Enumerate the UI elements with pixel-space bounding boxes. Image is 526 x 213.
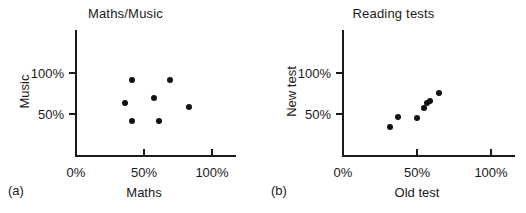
y-axis-title-a: Music (17, 51, 32, 131)
data-point-a-1 (122, 100, 128, 106)
x-axis-line-a (75, 155, 236, 157)
x-axis-line-b (342, 155, 515, 157)
x-tick-b-1 (416, 149, 418, 155)
data-point-b-6 (436, 90, 442, 96)
data-point-a-2 (129, 118, 135, 124)
data-point-b-1 (395, 114, 401, 120)
y-axis-line-b (342, 30, 344, 157)
x-axis-title-b: Old test (395, 185, 440, 200)
y-tick-b-0 (336, 113, 342, 115)
y-tick-label-a-0: 50% (0, 107, 64, 122)
data-point-a-5 (167, 77, 173, 83)
y-tick-label-a-1: 100% (0, 66, 64, 81)
scatterplot-figure: Maths/Music 50%100%0%50%100%MathsMusic (… (0, 0, 526, 213)
x-tick-a-2 (211, 149, 213, 155)
plot-area-b: 50%100%0%50%100%Old testNew test (263, 0, 526, 213)
x-tick-label-b-2: 100% (474, 165, 507, 180)
panel-a: Maths/Music 50%100%0%50%100%MathsMusic (… (0, 0, 263, 213)
data-point-a-4 (156, 118, 162, 124)
y-tick-a-0 (69, 113, 75, 115)
y-tick-a-1 (69, 72, 75, 74)
panel-label-a: (a) (8, 183, 24, 198)
x-tick-label-a-0: 0% (67, 165, 86, 180)
panel-label-b: (b) (271, 183, 287, 198)
data-point-b-0 (387, 124, 393, 130)
data-point-b-3 (421, 105, 427, 111)
data-point-a-6 (186, 104, 192, 110)
x-tick-label-a-1: 50% (131, 165, 157, 180)
x-tick-a-1 (143, 149, 145, 155)
y-axis-title-b: New test (284, 51, 299, 131)
y-axis-line-a (75, 30, 77, 157)
x-tick-b-2 (490, 149, 492, 155)
x-tick-label-a-2: 100% (195, 165, 228, 180)
x-axis-title-a: Maths (126, 185, 161, 200)
x-tick-label-b-1: 50% (404, 165, 430, 180)
data-point-a-0 (129, 77, 135, 83)
x-tick-label-b-0: 0% (334, 165, 353, 180)
data-point-a-3 (151, 95, 157, 101)
data-point-b-2 (414, 115, 420, 121)
data-point-b-5 (427, 98, 433, 104)
y-tick-b-1 (336, 72, 342, 74)
panel-b: Reading tests 50%100%0%50%100%Old testNe… (263, 0, 526, 213)
plot-area-a: 50%100%0%50%100%MathsMusic (0, 0, 263, 213)
